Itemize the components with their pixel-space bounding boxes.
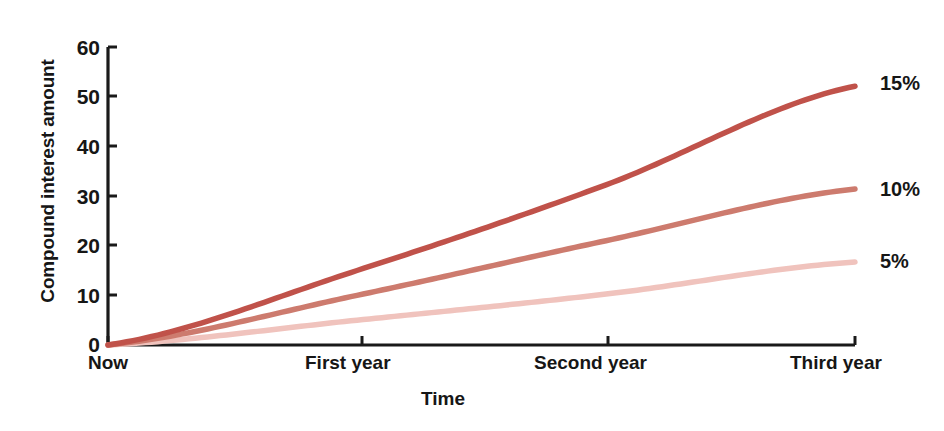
x-axis-title: Time	[0, 388, 944, 410]
series-label-10-percent: 10%	[880, 178, 920, 201]
compound-interest-line-chart: Compound interest amount 60 50 40 30 20 …	[0, 0, 944, 431]
x-tick-label-now: Now	[88, 352, 128, 374]
series-label-15-percent: 15%	[880, 72, 920, 95]
series-line-10-percent	[108, 189, 855, 345]
series-label-5-percent: 5%	[880, 250, 909, 273]
x-tick-label-second-year: Second year	[534, 352, 647, 374]
axis-lines	[108, 47, 855, 345]
x-axis-title-text: Time	[421, 388, 465, 410]
series-line-5-percent	[108, 262, 855, 345]
x-tick-label-third-year: Third year	[790, 352, 882, 374]
x-tick-label-first-year: First year	[305, 352, 391, 374]
